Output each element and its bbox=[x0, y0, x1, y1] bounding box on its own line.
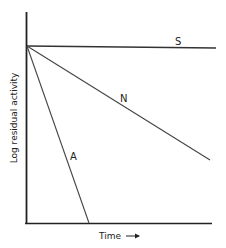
label-n: N bbox=[120, 93, 127, 104]
line-n bbox=[27, 46, 210, 160]
line-a bbox=[27, 46, 89, 223]
arrow-right-icon bbox=[126, 234, 140, 239]
line-s bbox=[27, 46, 216, 48]
diagram-canvas: S N A Log residual activity Time bbox=[0, 0, 226, 248]
x-axis-label: Time bbox=[98, 231, 121, 241]
label-s: S bbox=[175, 36, 181, 47]
label-a: A bbox=[70, 151, 77, 162]
y-axis-label: Log residual activity bbox=[9, 72, 19, 163]
